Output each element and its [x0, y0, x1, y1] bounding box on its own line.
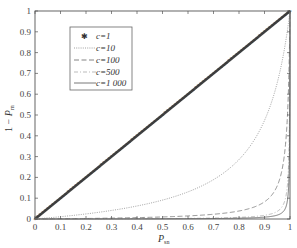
y-tick-label: 0.5	[20, 110, 32, 120]
y-tick-label: 1	[27, 6, 32, 16]
legend-label: c=1	[96, 31, 111, 41]
star-marker-icon: ✱	[81, 32, 88, 41]
x-tick-label: 0.9	[259, 222, 271, 232]
x-tick-label: 0.5	[157, 222, 169, 232]
legend-label: c=500	[96, 67, 120, 77]
y-tick-label: 0.8	[20, 48, 32, 58]
legend-label: c=10	[96, 43, 116, 53]
x-tick-label: 0	[33, 222, 38, 232]
y-tick-label: 0.9	[20, 27, 32, 37]
legend: ✱ c=1 c=10 c=100 c=500 c=1 000	[70, 27, 132, 90]
legend-label: c=100	[96, 55, 120, 65]
x-tick-label: 0.1	[55, 222, 66, 232]
x-tick-label: 0.6	[182, 222, 194, 232]
x-tick-label: 0.7	[208, 222, 220, 232]
x-tick-label: 1	[288, 222, 293, 232]
y-tick-label: 0	[27, 214, 32, 224]
y-tick-label: 0.6	[20, 89, 32, 99]
y-tick-label: 0.2	[20, 172, 31, 182]
x-tick-label: 0.4	[131, 222, 143, 232]
x-tick-label: 0.8	[233, 222, 245, 232]
y-tick-label: 0.7	[20, 68, 32, 78]
x-tick-label: 0.2	[80, 222, 91, 232]
x-axis-label: Psn	[157, 233, 169, 245]
y-tick-label: 0.4	[20, 131, 32, 141]
y-tick-label: 0.3	[20, 152, 32, 162]
y-tick-label: 0.1	[20, 193, 31, 203]
legend-item-c1: ✱ c=1	[81, 31, 111, 41]
x-tick-label: 0.3	[106, 222, 118, 232]
chart: ****************************************…	[0, 0, 297, 248]
legend-label: c=1 000	[96, 78, 127, 88]
y-axis-label: 1 − Prn	[3, 105, 15, 132]
